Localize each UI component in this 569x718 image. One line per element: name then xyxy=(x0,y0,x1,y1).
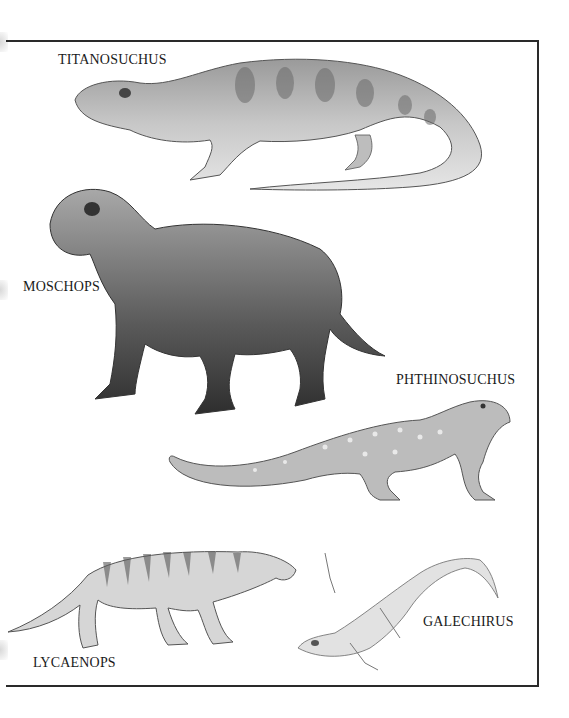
phthinosuchus-illustration xyxy=(165,392,515,502)
lycaenops-illustration xyxy=(8,540,298,655)
scan-artifact xyxy=(0,32,8,52)
label-phthinosuchus: PHTHINOSUCHUS xyxy=(396,372,515,388)
frame-border-top xyxy=(6,40,539,42)
frame-border-bottom xyxy=(6,685,539,687)
titanosuchus-illustration xyxy=(70,55,490,195)
label-galechirus: GALECHIRUS xyxy=(423,614,514,630)
scan-artifact xyxy=(0,640,8,660)
moschops-illustration xyxy=(40,184,390,419)
label-lycaenops: LYCAENOPS xyxy=(33,655,116,671)
frame-border-right xyxy=(537,40,539,687)
scan-artifact xyxy=(0,280,8,300)
galechirus-illustration xyxy=(290,548,510,678)
